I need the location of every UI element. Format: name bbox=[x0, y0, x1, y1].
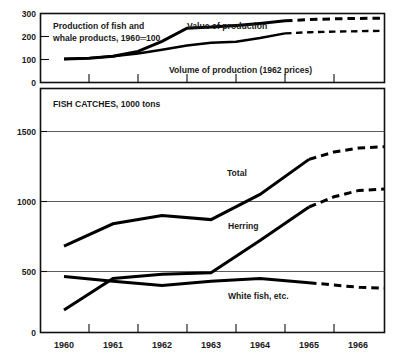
xtick-1965: 1965 bbox=[299, 340, 319, 350]
upper-ytick-300: 300 bbox=[22, 9, 36, 19]
xtick-1962: 1962 bbox=[152, 340, 172, 350]
lower-ytick-1000: 1000 bbox=[17, 197, 36, 207]
lower-ytick-500: 500 bbox=[22, 267, 36, 277]
upper-ytick-0: 0 bbox=[31, 78, 36, 88]
annotation-value-of-production: Value of production bbox=[187, 21, 267, 31]
upper-chart-title-line1: Production of fish and bbox=[53, 21, 144, 31]
lower-ytick-0: 0 bbox=[31, 328, 36, 338]
lower-chart-title: FISH CATCHES, 1000 tons bbox=[53, 99, 161, 109]
xtick-1963: 1963 bbox=[201, 340, 221, 350]
figure-background bbox=[0, 0, 398, 356]
upper-ytick-100: 100 bbox=[22, 55, 36, 65]
xtick-1961: 1961 bbox=[103, 340, 123, 350]
fish-production-figure: 300 200 100 0 Production of fish and wha… bbox=[0, 0, 398, 356]
annotation-herring: Herring bbox=[228, 221, 259, 231]
annotation-total: Total bbox=[227, 168, 247, 178]
upper-ytick-200: 200 bbox=[22, 32, 36, 42]
xtick-1960: 1960 bbox=[54, 340, 74, 350]
upper-chart-title-line2: whale products, 1960═100 bbox=[52, 33, 161, 43]
annotation-volume-of-production: Volume of production (1962 prices) bbox=[169, 65, 312, 75]
lower-ytick-1500: 1500 bbox=[17, 127, 36, 137]
xtick-1964: 1964 bbox=[250, 340, 270, 350]
xtick-1966: 1966 bbox=[348, 340, 368, 350]
annotation-white-fish: White fish, etc. bbox=[228, 291, 289, 301]
